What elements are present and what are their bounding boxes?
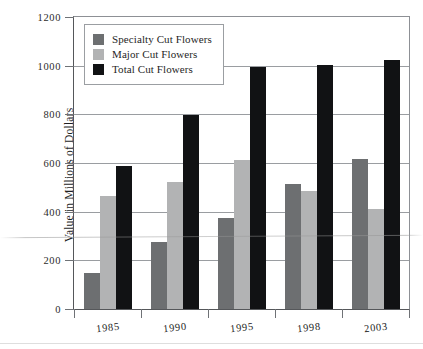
x-axis-tick-label: 1985	[95, 321, 120, 334]
y-axis-tick	[65, 260, 74, 261]
bar-1995-specialty	[218, 218, 234, 309]
y-axis-tick	[65, 114, 74, 115]
x-axis-tick	[342, 309, 343, 318]
x-axis-tick-label: 1998	[296, 321, 321, 334]
x-axis-tick-label: 2003	[363, 321, 388, 334]
y-axis-tick-label: 400	[43, 206, 61, 217]
y-axis-tick	[65, 66, 74, 67]
y-axis-tick-label: 200	[43, 255, 61, 266]
bar-1995-major	[234, 160, 250, 309]
legend-item: Total Cut Flowers	[93, 62, 214, 76]
x-axis-tick	[275, 309, 276, 318]
legend-item-label: Major Cut Flowers	[112, 48, 197, 60]
legend-item-label: Specialty Cut Flowers	[112, 33, 212, 45]
x-axis-tick-label: 1990	[162, 321, 187, 334]
bar-1990-specialty	[151, 242, 167, 309]
legend-item: Major Cut Flowers	[93, 47, 214, 61]
bar-1990-major	[167, 182, 183, 309]
bar-1998-specialty	[285, 184, 301, 309]
y-axis-tick-label: 600	[43, 158, 61, 169]
x-axis-tick	[208, 309, 209, 318]
bar-1998-major	[301, 191, 317, 309]
bar-1985-specialty	[84, 273, 100, 310]
y-axis-tick	[65, 17, 74, 18]
y-axis-tick	[65, 163, 74, 164]
y-axis-tick	[65, 309, 74, 310]
bar-chart: Value in Millions of Dollars 02004006008…	[0, 0, 423, 349]
scan-artifact-line-bottom	[0, 343, 423, 344]
bar-1998-total	[317, 65, 333, 309]
bar-1985-total	[116, 166, 132, 309]
y-axis-tick-label: 800	[43, 109, 61, 120]
y-axis-tick-label: 1200	[38, 12, 61, 23]
x-axis-tick-label: 1995	[229, 321, 254, 334]
y-axis-tick-label: 0	[55, 304, 61, 315]
y-axis-tick-label: 1000	[38, 60, 61, 71]
legend-item-label: Total Cut Flowers	[112, 63, 193, 75]
bar-group	[352, 17, 400, 309]
bar-2003-total	[384, 60, 400, 309]
legend-item: Specialty Cut Flowers	[93, 32, 214, 46]
bar-2003-major	[368, 209, 384, 309]
x-axis-tick	[74, 309, 75, 318]
bar-group	[218, 17, 266, 309]
bar-1995-total	[250, 67, 266, 309]
bar-1985-major	[100, 196, 116, 309]
x-axis-tick	[141, 309, 142, 318]
y-axis-tick	[65, 212, 74, 213]
chart-legend: Specialty Cut FlowersMajor Cut FlowersTo…	[84, 24, 224, 85]
bar-1990-total	[183, 115, 199, 309]
legend-swatch-icon	[93, 49, 104, 60]
legend-swatch-icon	[93, 34, 104, 45]
bar-group	[285, 17, 333, 309]
x-axis-tick	[409, 309, 410, 318]
legend-swatch-icon	[93, 64, 104, 75]
bar-2003-specialty	[352, 159, 368, 309]
